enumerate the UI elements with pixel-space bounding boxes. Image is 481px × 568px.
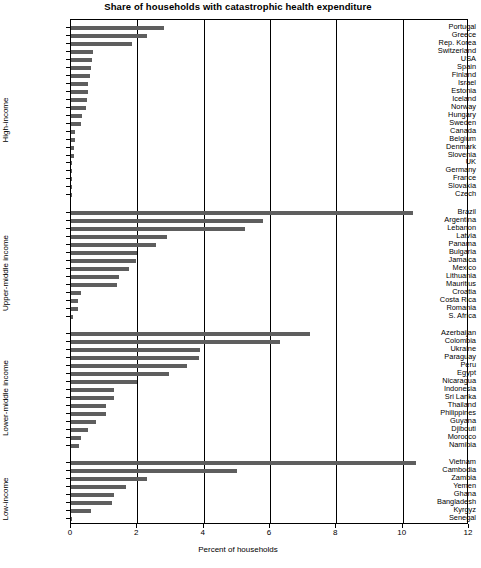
x-tick-label: 8	[320, 528, 350, 537]
bar	[71, 404, 106, 408]
bar	[71, 412, 106, 416]
bar	[71, 42, 132, 46]
bar	[71, 267, 129, 271]
bar	[71, 485, 126, 489]
bar	[71, 299, 78, 303]
bar	[71, 469, 237, 473]
bar	[71, 58, 92, 62]
bar	[71, 106, 86, 110]
bar	[71, 388, 114, 392]
bar	[71, 235, 167, 239]
gridline	[403, 20, 404, 523]
bar	[71, 501, 112, 505]
plot-area	[70, 19, 468, 524]
bar	[71, 138, 75, 142]
x-axis-label: Percent of households	[0, 545, 476, 554]
x-tick-label: 6	[254, 528, 284, 537]
bar	[71, 122, 81, 126]
bar	[71, 291, 81, 295]
bar	[71, 251, 137, 255]
bar	[71, 372, 169, 376]
bar	[71, 364, 187, 368]
bar	[71, 509, 91, 513]
bar	[71, 283, 117, 287]
bar	[71, 154, 74, 158]
gridline	[336, 20, 337, 523]
bar	[71, 193, 72, 197]
bar	[71, 461, 416, 465]
group-label: Upper-middle income	[1, 235, 10, 311]
bar	[71, 66, 91, 70]
bar	[71, 177, 72, 181]
bar	[71, 444, 79, 448]
bar	[71, 396, 114, 400]
bar	[71, 185, 72, 189]
bar	[71, 90, 88, 94]
bar	[71, 169, 72, 173]
x-tick-label: 4	[188, 528, 218, 537]
bar	[71, 130, 75, 134]
chart-title: Share of households with catastrophic he…	[0, 1, 476, 12]
bar	[71, 146, 74, 150]
bar	[71, 26, 164, 30]
bar	[71, 82, 88, 86]
bar	[71, 219, 263, 223]
bar	[71, 98, 87, 102]
x-tick-label: 10	[387, 528, 417, 537]
bar	[71, 34, 147, 38]
bar	[71, 340, 280, 344]
bar	[71, 332, 310, 336]
bar	[71, 420, 96, 424]
bar	[71, 348, 200, 352]
bar	[71, 74, 90, 78]
gridline	[270, 20, 271, 523]
bar	[71, 428, 88, 432]
bar	[71, 114, 82, 118]
bar	[71, 161, 72, 165]
bar	[71, 307, 78, 311]
group-label: Low-income	[1, 478, 10, 521]
bar	[71, 50, 93, 54]
group-label: High-income	[1, 97, 10, 142]
bar	[71, 275, 119, 279]
bar	[71, 227, 245, 231]
x-tick-label: 2	[121, 528, 151, 537]
bar	[71, 477, 147, 481]
x-tick-label: 0	[55, 528, 85, 537]
bar	[71, 243, 156, 247]
gridline	[204, 20, 205, 523]
bar	[71, 356, 199, 360]
bar	[71, 380, 137, 384]
bar	[71, 259, 136, 263]
x-tick-label: 12	[453, 528, 481, 537]
bar	[71, 211, 413, 215]
bar	[71, 436, 81, 440]
bar	[71, 315, 73, 319]
gridline	[137, 20, 138, 523]
bar	[71, 517, 72, 521]
bar	[71, 493, 114, 497]
group-label: Lower-middle income	[1, 360, 10, 436]
